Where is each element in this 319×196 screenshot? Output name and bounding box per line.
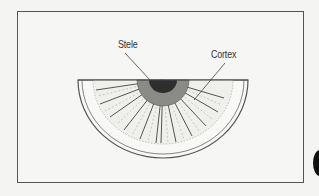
stele-label: Stele bbox=[118, 38, 137, 50]
stele-leader-line bbox=[125, 53, 150, 80]
root-cross-section bbox=[0, 0, 319, 196]
cortex-label: Cortex bbox=[211, 48, 236, 60]
